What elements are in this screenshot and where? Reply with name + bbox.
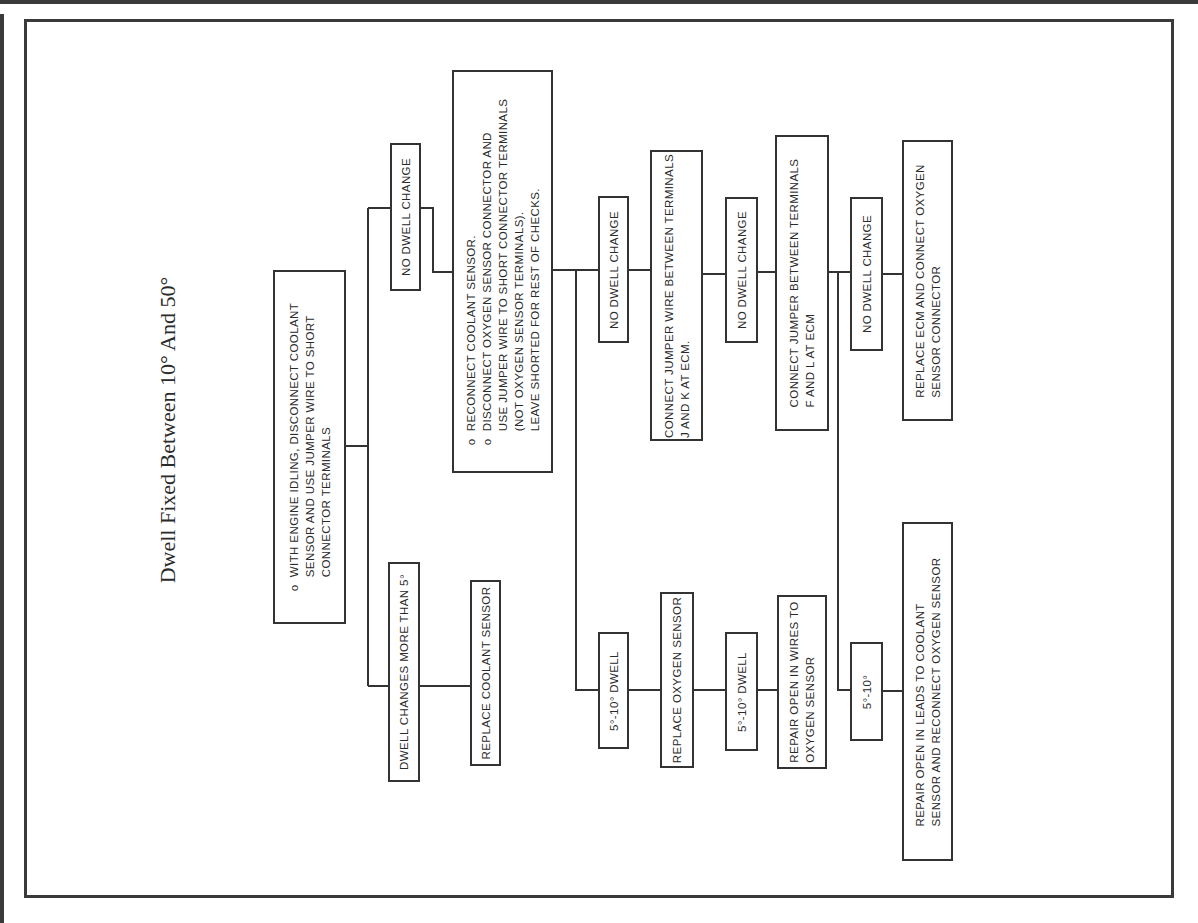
replace-oxygen-sensor-box: REPLACE OXYGEN SENSOR [660,592,694,768]
dwell-changes-more-than-5-box: DWELL CHANGES MORE THAN 5° [388,562,420,782]
no-dwell-change-label-2: NO DWELL CHANGE [606,210,622,328]
replace-ecm-box: REPLACE ECM AND CONNECT OXYGEN SENSOR CO… [902,140,953,421]
replace-coolant-sensor-box: REPLACE COOLANT SENSOR [470,580,501,766]
replace-oxygen-sensor-label: REPLACE OXYGEN SENSOR [669,597,685,763]
repair-wires-box: REPAIR OPEN IN WIRES TO OXYGEN SENSOR [777,595,827,769]
dwell-5-10-box-1: 5°-10° DWELL [598,632,629,749]
no-dwell-change-box-3: NO DWELL CHANGE [725,197,758,343]
reconnect-step-text: oRECONNECT COOLANT SENSOR. oDISCONNECT O… [463,98,543,445]
jumper-fl-box: CONNECT JUMPER BETWEEN TERMINALS F AND L… [775,135,829,431]
repair-leads-text: REPAIR OPEN IN LEADS TO COOLANT SENSOR A… [912,557,944,826]
diagram-title: Dwell Fixed Between 10° And 50° [155,277,181,584]
dwell-5-10-label-3: 5°-10° [859,674,875,709]
replace-coolant-sensor-label: REPLACE COOLANT SENSOR [478,587,494,760]
dwell-changes-more-than-5-label: DWELL CHANGES MORE THAN 5° [396,574,412,770]
no-dwell-change-label-3: NO DWELL CHANGE [734,211,750,329]
jumper-jk-text: CONNECT JUMPER WIRE BETWEEN TERMINALS J … [661,153,693,437]
dwell-5-10-box-3: 5°-10° [850,642,883,741]
no-dwell-change-label-1: NO DWELL CHANGE [398,158,414,276]
start-step-box: oWITH ENGINE IDLING, DISCONNECT COOLANT … [273,270,346,624]
repair-wires-text: REPAIR OPEN IN WIRES TO OXYGEN SENSOR [786,601,818,762]
jumper-jk-box: CONNECT JUMPER WIRE BETWEEN TERMINALS J … [650,150,703,441]
dwell-5-10-box-2: 5°-10° DWELL [725,632,758,751]
no-dwell-change-box-4: NO DWELL CHANGE [850,197,883,351]
no-dwell-change-box-1: NO DWELL CHANGE [390,143,421,291]
no-dwell-change-box-2: NO DWELL CHANGE [598,196,629,343]
start-step-text: oWITH ENGINE IDLING, DISCONNECT COOLANT … [286,303,334,591]
repair-leads-box: REPAIR OPEN IN LEADS TO COOLANT SENSOR A… [902,522,953,861]
no-dwell-change-label-4: NO DWELL CHANGE [859,215,875,333]
reconnect-step-box: oRECONNECT COOLANT SENSOR. oDISCONNECT O… [452,70,553,473]
dwell-5-10-label-2: 5°-10° DWELL [734,652,750,732]
replace-ecm-text: REPLACE ECM AND CONNECT OXYGEN SENSOR CO… [912,164,944,398]
dwell-5-10-label-1: 5°-10° DWELL [606,651,622,731]
jumper-fl-text: CONNECT JUMPER BETWEEN TERMINALS F AND L… [786,159,818,408]
